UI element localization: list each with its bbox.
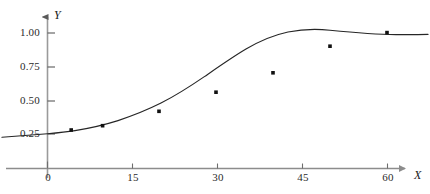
x-tick-label-0: 0	[33, 171, 63, 183]
data-point	[271, 71, 275, 75]
y-axis-label: Y	[54, 8, 61, 23]
y-tick-label-0.50: 0.50	[4, 94, 40, 106]
figure-container: 1.00 0.75 0.50 0.25 0 15 30 45 60 Y X	[0, 0, 430, 194]
x-axis-label: X	[414, 168, 421, 183]
x-tick-label-60: 60	[373, 171, 403, 183]
data-point-markers	[69, 31, 388, 132]
chart-canvas	[0, 0, 430, 194]
fitted-curve	[2, 29, 428, 137]
x-tick-label-30: 30	[203, 171, 233, 183]
figure-caption	[0, 184, 430, 194]
data-point	[69, 128, 73, 132]
y-tick-label-1.00: 1.00	[4, 26, 40, 38]
x-tick-label-15: 15	[118, 171, 148, 183]
data-point	[157, 110, 161, 114]
x-tick-label-45: 45	[288, 171, 318, 183]
x-axis-ticks	[48, 162, 388, 169]
y-tick-label-0.25: 0.25	[4, 127, 40, 139]
data-point	[385, 31, 389, 35]
data-point	[328, 44, 332, 48]
data-point	[101, 124, 105, 128]
data-point	[214, 90, 218, 94]
y-tick-label-0.75: 0.75	[4, 60, 40, 72]
y-axis-ticks	[48, 33, 56, 134]
